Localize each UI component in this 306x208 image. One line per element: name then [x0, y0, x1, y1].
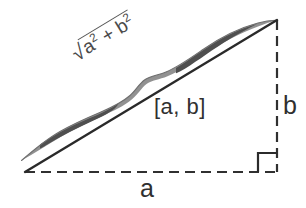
gray-brush-curve-fill: [22, 20, 276, 160]
gray-brush-curve-outline: [22, 20, 276, 160]
interval-vector-label: [a, b]: [154, 96, 206, 118]
height-length-label: b: [283, 93, 297, 118]
base-length-label: a: [140, 176, 154, 201]
gray-brush-curve-group: [22, 20, 276, 160]
hypotenuse-line: [25, 20, 277, 172]
pythagorean-triangle-figure: √a2 + b2 [a, b] a b: [0, 0, 306, 208]
right-angle-marker: [258, 153, 277, 172]
